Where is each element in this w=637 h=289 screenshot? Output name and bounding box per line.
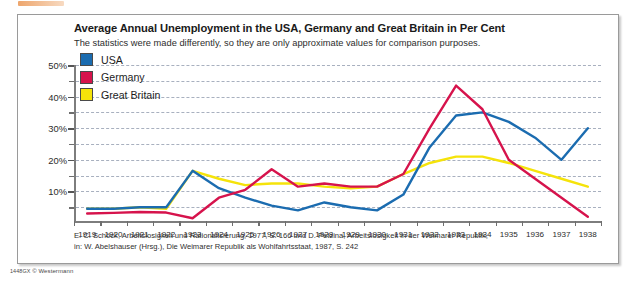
legend-swatch-icon — [80, 88, 93, 101]
source-note: E. C. Schöck, Arbeitslosigkeit und Ratio… — [74, 231, 599, 252]
y-axis-label: 30% — [48, 123, 67, 134]
y-axis-label: 20% — [48, 154, 67, 165]
series-line-germany — [87, 86, 588, 219]
legend-label: Germany — [101, 71, 145, 83]
source-line-2: in: W. Abelshauser (Hrsg.), Die Weimarer… — [74, 242, 599, 253]
chart-title: Average Annual Unemployment in the USA, … — [74, 22, 505, 34]
chart-subtitle: The statistics were made differently, so… — [74, 38, 480, 48]
chart-card: Average Annual Unemployment in the USA, … — [17, 14, 619, 264]
legend-item-germany[interactable]: Germany — [80, 71, 160, 84]
source-line-1: E. C. Schöck, Arbeitslosigkeit und Ratio… — [74, 231, 599, 242]
legend-swatch-icon — [80, 53, 93, 66]
legend-item-usa[interactable]: USA — [80, 53, 160, 66]
y-axis-label: 40% — [48, 91, 67, 102]
page-bleed-mark — [18, 1, 64, 6]
legend-label: USA — [101, 54, 123, 66]
map-code: 1448GX — [10, 268, 30, 274]
publisher-credit: 1448GX © Westermann — [10, 268, 73, 274]
y-axis-label: 50% — [48, 60, 67, 71]
legend-item-great-britain[interactable]: Great Britain — [80, 88, 160, 101]
publisher-name: © Westermann — [32, 268, 73, 274]
series-line-great-britain — [87, 157, 588, 209]
legend-swatch-icon — [80, 71, 93, 84]
legend-label: Great Britain — [101, 89, 160, 101]
chart-legend: USAGermanyGreat Britain — [80, 53, 160, 101]
y-axis-label: 10% — [48, 186, 67, 197]
x-axis-tick — [601, 221, 602, 226]
